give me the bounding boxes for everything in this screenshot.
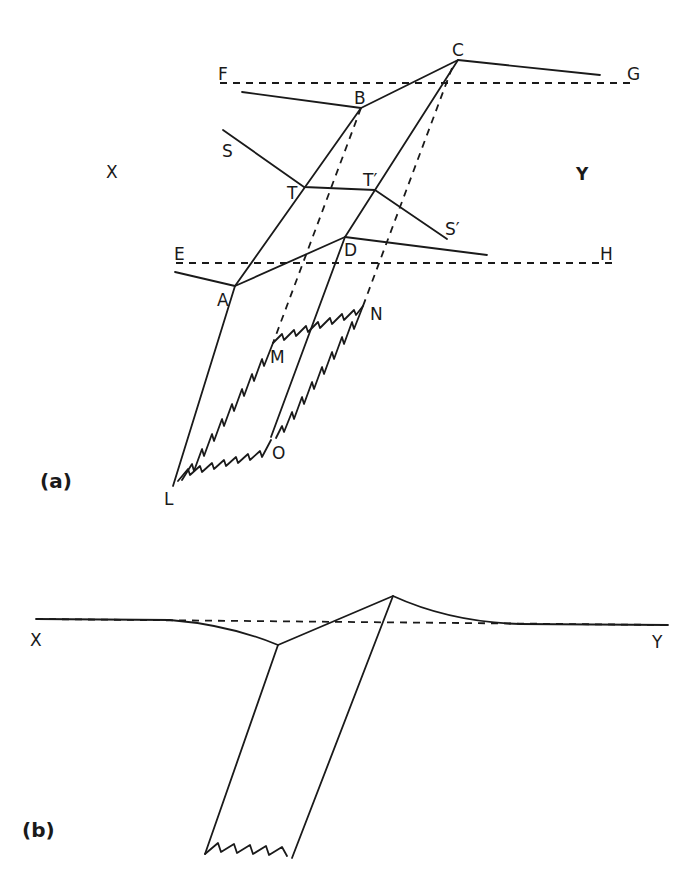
point-label-s: S xyxy=(222,141,233,161)
edge-c-d xyxy=(345,60,458,237)
point-label-e: E xyxy=(174,244,185,264)
point-label-b: B xyxy=(354,88,366,108)
point-label-a: A xyxy=(217,290,229,310)
point-label-s-prime: S′ xyxy=(445,219,460,239)
panel-label-b: (b) xyxy=(22,818,55,842)
line-b-c-profile xyxy=(242,60,600,108)
dashed-b-m xyxy=(273,108,361,343)
line-a-d-profile xyxy=(175,237,487,286)
axis-label-y-b: Y xyxy=(651,632,663,652)
dike-right-edge xyxy=(292,596,393,858)
panel-label-a: (a) xyxy=(40,469,72,493)
line-s-t-t-prime-s-prime xyxy=(223,130,447,239)
axis-label-x-b: X xyxy=(30,630,42,650)
point-label-h: H xyxy=(600,244,613,264)
point-label-c: C xyxy=(452,40,464,60)
axis-label-y-a: Y xyxy=(575,164,589,184)
edge-b-a xyxy=(235,108,361,286)
dike-left-edge xyxy=(205,645,278,854)
point-label-o: O xyxy=(272,443,285,463)
panel-a: C F G B S X Y T T′ S′ D E H A N M O L (a… xyxy=(40,40,640,509)
break-zigzag xyxy=(205,843,287,856)
point-label-t-prime: T′ xyxy=(362,170,377,190)
point-label-l: L xyxy=(164,489,174,509)
point-label-d: D xyxy=(344,240,357,260)
point-label-g: G xyxy=(627,64,640,84)
fault-diagram: C F G B S X Y T T′ S′ D E H A N M O L (a… xyxy=(0,0,686,875)
point-label-f: F xyxy=(218,64,228,84)
zigzag-l-o xyxy=(178,440,271,481)
axis-label-x-a: X xyxy=(106,162,118,182)
panel-b: X Y (b) xyxy=(22,596,668,858)
point-label-n: N xyxy=(370,304,383,324)
point-label-m: M xyxy=(270,347,285,367)
point-label-t: T xyxy=(286,183,298,203)
surface-profile xyxy=(36,596,668,645)
